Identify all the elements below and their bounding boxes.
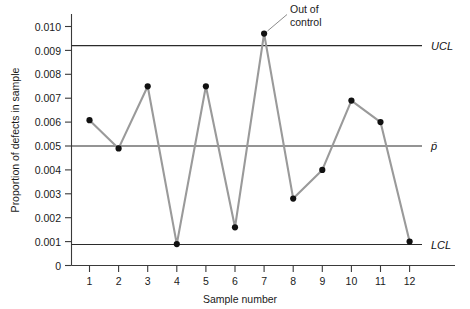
- data-point-8: [290, 196, 296, 202]
- x-tick-label-8: 8: [290, 275, 296, 287]
- data-point-1: [86, 117, 92, 123]
- chart-canvas: 0 0.001 0.002 0.003 0.004 0.005 0.006 0.…: [0, 0, 470, 309]
- x-tick-label-12: 12: [404, 275, 416, 287]
- y-tick-label-0.008: 0.008: [35, 68, 61, 80]
- y-tick-label-0: 0: [55, 260, 61, 272]
- data-point-6: [232, 224, 238, 230]
- data-point-11: [377, 119, 383, 125]
- chart-background: [0, 0, 470, 309]
- y-tick-label-0.006: 0.006: [35, 116, 61, 128]
- pbar-label: p̄: [430, 140, 437, 152]
- out-of-control-annotation-line1: Out of: [290, 3, 319, 15]
- y-tick-label-0.004: 0.004: [35, 164, 61, 176]
- x-tick-label-7: 7: [261, 275, 267, 287]
- x-tick-label-2: 2: [116, 275, 122, 287]
- x-tick-label-10: 10: [346, 275, 358, 287]
- data-point-2: [116, 145, 122, 151]
- y-tick-label-0.001: 0.001: [35, 236, 61, 248]
- x-tick-label-1: 1: [87, 275, 93, 287]
- x-tick-label-5: 5: [203, 275, 209, 287]
- data-point-3: [145, 83, 151, 89]
- data-point-4: [174, 241, 180, 247]
- data-point-7: [261, 30, 267, 36]
- y-axis-title: Proportion of defects in sample: [9, 67, 21, 212]
- data-point-9: [319, 167, 325, 173]
- out-of-control-annotation-line2: control: [290, 16, 322, 28]
- x-tick-label-6: 6: [232, 275, 238, 287]
- y-tick-label-0.002: 0.002: [35, 212, 61, 224]
- control-chart: 0 0.001 0.002 0.003 0.004 0.005 0.006 0.…: [0, 0, 470, 309]
- data-point-10: [348, 98, 354, 104]
- x-tick-label-11: 11: [375, 275, 386, 287]
- lcl-label: LCL: [431, 239, 451, 251]
- y-tick-label-0.009: 0.009: [35, 45, 61, 57]
- x-axis-title: Sample number: [203, 293, 278, 305]
- y-tick-label-0.010: 0.010: [35, 21, 61, 33]
- y-tick-label-0.005: 0.005: [35, 140, 61, 152]
- x-tick-label-3: 3: [145, 275, 151, 287]
- data-point-5: [203, 83, 209, 89]
- y-tick-label-0.003: 0.003: [35, 188, 61, 200]
- data-point-12: [407, 239, 413, 245]
- x-tick-label-4: 4: [174, 275, 180, 287]
- x-tick-label-9: 9: [319, 275, 325, 287]
- ucl-label: UCL: [431, 40, 453, 52]
- y-tick-label-0.007: 0.007: [35, 92, 61, 104]
